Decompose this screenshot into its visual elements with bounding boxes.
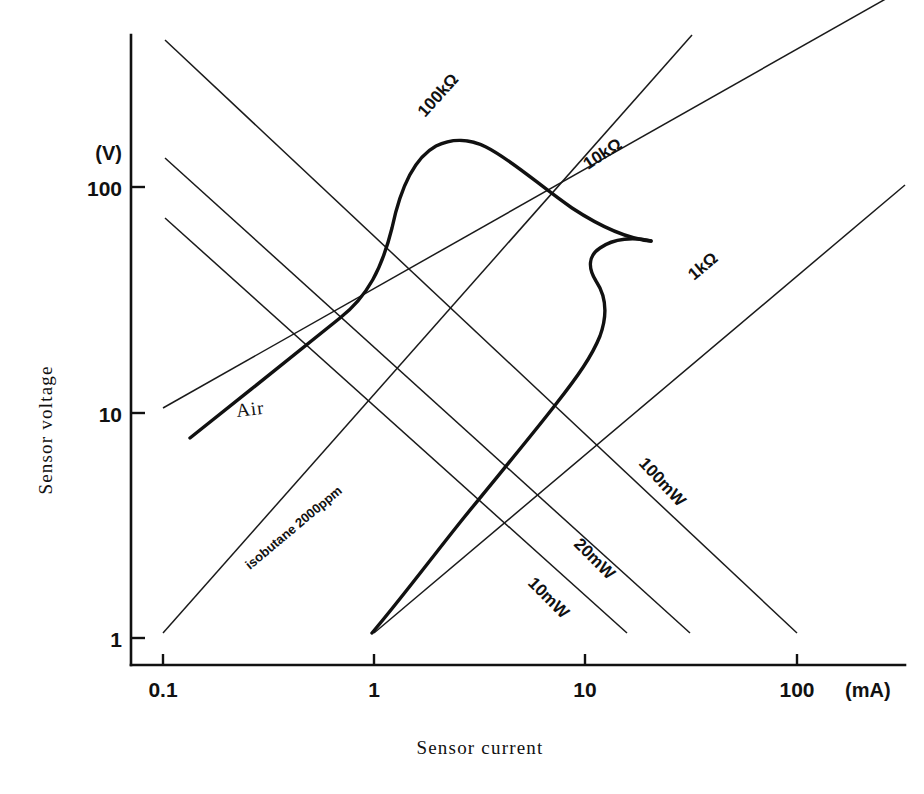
label-10mw: 10mW [524, 573, 574, 623]
curve-air [190, 140, 651, 438]
tick-labels-group: 100 10 1 (V) 0.1 1 10 100 (mA) [87, 142, 891, 701]
y-tick-label-10: 10 [99, 403, 122, 426]
y-axis-title: Sensor voltage [35, 365, 56, 494]
power-lines-group [165, 40, 797, 633]
label-10k-ohm: 10kΩ [580, 135, 626, 174]
x-axis-unit: (mA) [845, 679, 891, 701]
resistance-line-1k [374, 185, 905, 633]
resistance-line-10k [163, 0, 905, 408]
x-tick-label-0.1: 0.1 [148, 678, 178, 701]
figure-container: 100 10 1 (V) 0.1 1 10 100 (mA) 100kΩ 10k… [0, 0, 924, 794]
label-100k-ohm: 100kΩ [414, 70, 463, 121]
x-tick-label-1: 1 [368, 678, 380, 701]
x-tick-label-100: 100 [779, 678, 814, 701]
label-20mw: 20mW [570, 534, 620, 584]
y-tick-label-100: 100 [87, 177, 122, 200]
y-tick-label-1: 1 [110, 628, 122, 651]
resistance-line-100k [163, 35, 692, 633]
power-line-10mw [165, 218, 627, 633]
x-tick-label-10: 10 [573, 678, 596, 701]
line-annotations-group: 100kΩ 10kΩ 1kΩ 100mW 20mW 10mW [414, 70, 722, 623]
iv-characteristic-chart: 100 10 1 (V) 0.1 1 10 100 (mA) 100kΩ 10k… [0, 0, 924, 794]
curve-annotations-group: Air isobutane 2000ppm [235, 397, 345, 573]
power-line-100mw [165, 40, 797, 633]
x-axis-title: Sensor current [416, 737, 543, 758]
label-isobutane-curve: isobutane 2000ppm [242, 483, 345, 573]
label-100mw: 100mW [635, 454, 690, 511]
label-air-curve: Air [235, 397, 266, 421]
y-axis-unit: (V) [95, 142, 122, 164]
axes-group [131, 35, 905, 665]
label-1k-ohm: 1kΩ [684, 249, 721, 284]
